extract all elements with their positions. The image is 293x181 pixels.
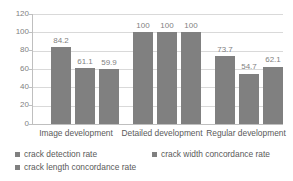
legend-label-crack-width-concordance-rate: crack width concordance rate	[161, 149, 270, 159]
bar-image-development-crack-length-concordance-rate[interactable]	[99, 69, 119, 124]
bar-value-label-g0s0: 84.2	[46, 37, 76, 45]
bar-value-label-g1s2: 100	[176, 22, 206, 30]
legend-label-crack-length-concordance-rate: crack length concordance rate	[24, 162, 136, 172]
plot-area: 84.2 61.1 59.9 100 100 100 73.7 54.7 62.…	[33, 14, 283, 124]
bar-regular-development-crack-width-concordance-rate[interactable]	[239, 74, 259, 124]
y-axis-tick-20: 20	[1, 101, 29, 109]
legend-item-crack-width-concordance-rate[interactable]: crack width concordance rate	[152, 149, 270, 159]
bar-value-label-g2s0: 73.7	[210, 46, 240, 54]
legend-swatch-icon	[15, 152, 20, 157]
bar-detailed-development-crack-length-concordance-rate[interactable]	[181, 32, 201, 124]
legend-swatch-icon	[152, 152, 157, 157]
legend-item-crack-length-concordance-rate[interactable]: crack length concordance rate	[15, 162, 136, 172]
bar-regular-development-crack-length-concordance-rate[interactable]	[263, 67, 283, 124]
y-axis-tick-100: 100	[1, 28, 29, 36]
legend-item-crack-detection-rate[interactable]: crack detection rate	[15, 149, 97, 159]
x-axis-category-detailed-development: Detailed development	[112, 128, 212, 138]
bar-regular-development-crack-detection-rate[interactable]	[215, 56, 235, 124]
legend-label-crack-detection-rate: crack detection rate	[24, 149, 97, 159]
bar-detailed-development-crack-width-concordance-rate[interactable]	[157, 32, 177, 124]
bar-image-development-crack-detection-rate[interactable]	[51, 47, 71, 124]
bar-value-label-g0s2: 59.9	[94, 59, 124, 67]
y-axis-tick-0: 0	[1, 120, 29, 128]
bar-value-label-g2s1: 54.7	[234, 63, 264, 71]
gridline-120	[33, 14, 283, 15]
chart-legend: crack detection rate crack width concord…	[0, 146, 293, 181]
legend-swatch-icon	[15, 165, 20, 170]
bar-chart: 120 100 80 60 40 20 0 84.2	[0, 0, 293, 181]
x-axis-category-image-development: Image development	[30, 128, 122, 138]
bar-image-development-crack-width-concordance-rate[interactable]	[75, 68, 95, 124]
x-axis-category-regular-development: Regular development	[200, 128, 292, 138]
bar-detailed-development-crack-detection-rate[interactable]	[133, 32, 153, 124]
y-axis-tick-40: 40	[1, 83, 29, 91]
y-axis-tick-60: 60	[1, 65, 29, 73]
y-axis-tick-120: 120	[1, 10, 29, 18]
y-axis-tick-80: 80	[1, 46, 29, 54]
bar-value-label-g2s2: 62.1	[258, 56, 288, 64]
axis-baseline	[33, 124, 283, 125]
